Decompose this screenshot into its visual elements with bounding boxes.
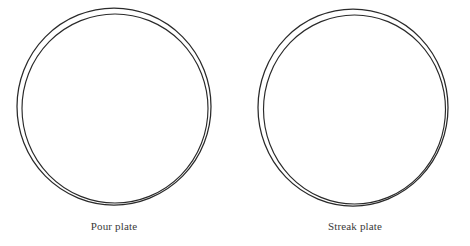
pour-plate-caption: Pour plate: [0, 220, 228, 233]
pour-plate-drawing: [0, 0, 228, 215]
pour-plate-outer-ring: [17, 8, 211, 205]
streak-plate-drawing: [240, 0, 470, 215]
pour-plate-inner-ring: [22, 14, 208, 203]
streak-plate-inner-ring: [264, 15, 446, 204]
streak-plate-caption: Streak plate: [240, 220, 470, 233]
pour-plate-figure: Pour plate: [0, 0, 228, 246]
petri-dish-figure: Pour plate Streak plate: [0, 0, 470, 246]
streak-plate-figure: Streak plate: [240, 0, 470, 246]
